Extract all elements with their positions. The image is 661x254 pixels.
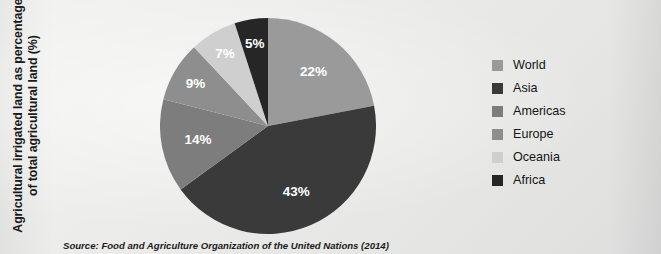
y-axis-label-container: Agricultural irrigated land as percentag…: [0, 0, 52, 232]
legend-item-africa[interactable]: Africa: [492, 169, 642, 191]
legend-label-europe: Europe: [513, 128, 554, 141]
source-note: Source: Food and Agriculture Organizatio…: [63, 240, 389, 251]
pie-chart: 22%43%14%9%7%5%: [160, 18, 376, 234]
legend-label-americas: Americas: [513, 105, 565, 118]
legend-swatch-world: [492, 60, 503, 71]
legend-item-oceania[interactable]: Oceania: [492, 146, 642, 168]
legend-label-asia: Asia: [513, 82, 538, 95]
pie-slice-label-asia: 43%: [283, 184, 310, 199]
y-axis-label-line-1: Agricultural irrigated land as percentag…: [11, 0, 25, 233]
y-axis-label: Agricultural irrigated land as percentag…: [11, 0, 40, 233]
legend-swatch-americas: [492, 106, 503, 117]
legend-label-africa: Africa: [513, 174, 545, 187]
pie-slice-label-americas: 14%: [184, 132, 211, 147]
pie-slice-label-africa: 5%: [245, 36, 265, 51]
legend-item-europe[interactable]: Europe: [492, 123, 642, 145]
legend-label-world: World: [513, 59, 546, 72]
legend-swatch-asia: [492, 83, 503, 94]
legend-swatch-africa: [492, 175, 503, 186]
legend-label-oceania: Oceania: [513, 151, 560, 164]
pie-slice-label-world: 22%: [300, 64, 327, 79]
pie-slice-label-oceania: 7%: [215, 46, 235, 61]
chart-legend: World Asia Americas Europe Oceania Afric…: [492, 54, 642, 192]
y-axis-label-line-2: of total agricultural land (%): [26, 0, 41, 233]
pie-slice-group: [160, 18, 376, 234]
legend-item-asia[interactable]: Asia: [492, 77, 642, 99]
legend-item-americas[interactable]: Americas: [492, 100, 642, 122]
pie-slice-label-europe: 9%: [186, 76, 206, 91]
legend-swatch-europe: [492, 129, 503, 140]
chart-figure: Agricultural irrigated land as percentag…: [0, 0, 661, 254]
legend-item-world[interactable]: World: [492, 54, 642, 76]
pie-chart-svg: 22%43%14%9%7%5%: [160, 18, 376, 234]
legend-swatch-oceania: [492, 152, 503, 163]
